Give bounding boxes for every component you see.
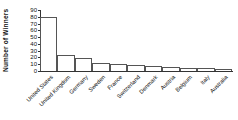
bar xyxy=(145,66,162,71)
y-tick-label: 70 xyxy=(23,21,37,27)
y-tick-label: 80 xyxy=(23,14,37,20)
x-tick-label: Sweden xyxy=(87,74,106,93)
bar xyxy=(162,67,179,71)
bar-chart: Number of Winners 0102030405060708090Uni… xyxy=(0,0,238,120)
y-axis-title: Number of Winners xyxy=(2,8,14,72)
y-tick-label: 10 xyxy=(23,61,37,67)
bar xyxy=(197,68,214,71)
y-tick-label: 30 xyxy=(23,48,37,54)
bar xyxy=(110,64,127,71)
bar xyxy=(92,63,109,71)
x-tick-label: Belgium xyxy=(174,74,193,93)
bar xyxy=(75,58,92,71)
bar xyxy=(180,68,197,71)
bar xyxy=(215,69,232,71)
y-tick-label: 60 xyxy=(23,27,37,33)
y-tick-label: 50 xyxy=(23,34,37,40)
bar xyxy=(57,55,74,71)
y-tick-label: 0 xyxy=(23,68,37,74)
y-tick-label: 20 xyxy=(23,54,37,60)
x-axis-line xyxy=(40,71,233,72)
bar xyxy=(127,65,144,71)
x-tick-label: Australia xyxy=(208,74,228,94)
bar xyxy=(40,17,57,71)
x-tick-label: Italy xyxy=(199,74,211,86)
y-tick-label: 40 xyxy=(23,41,37,47)
y-tick-label: 90 xyxy=(23,7,37,13)
